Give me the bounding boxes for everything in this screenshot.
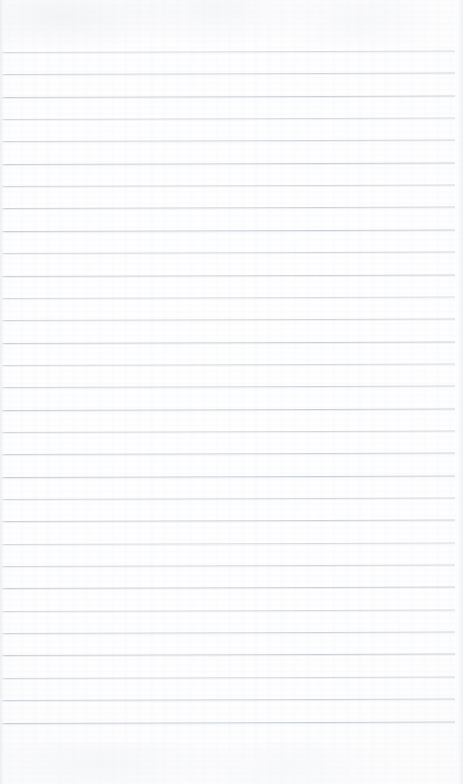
page-content-area [12,52,442,736]
scanned-notepad-page [0,0,463,784]
